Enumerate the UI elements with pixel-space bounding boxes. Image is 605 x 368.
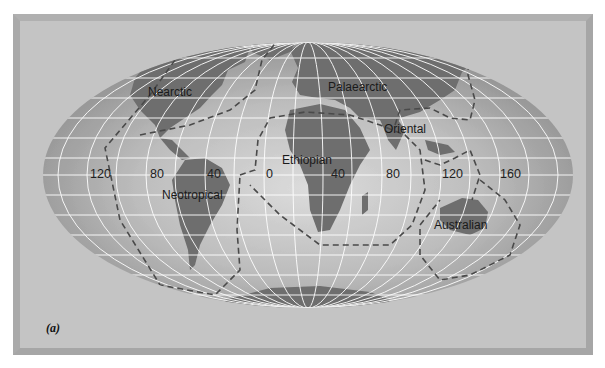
longitude-label: 120 (90, 167, 111, 181)
longitude-label: 120 (442, 167, 463, 181)
panel-label: (a) (46, 321, 60, 336)
region-label-australian: Australian (434, 218, 487, 232)
world-map (0, 0, 605, 368)
longitude-label: 160 (500, 167, 521, 181)
region-label-neotropical: Neotropical (162, 188, 223, 202)
region-label-oriental: Oriental (384, 122, 426, 136)
region-label-ethiopian: Ethiopian (282, 153, 332, 167)
longitude-label: 40 (331, 167, 345, 181)
longitude-label: 80 (150, 167, 164, 181)
longitude-label: 0 (266, 167, 273, 181)
region-label-palaearctic: Palaearctic (328, 80, 387, 94)
longitude-label: 40 (207, 167, 221, 181)
longitude-label: 80 (386, 167, 400, 181)
region-label-nearctic: Nearctic (148, 85, 192, 99)
